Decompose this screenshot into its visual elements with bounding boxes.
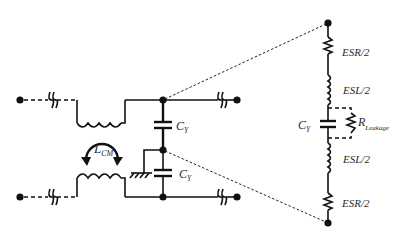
- esl-top-label: ESL/2: [342, 84, 370, 96]
- cm-inductor-top-winding: [77, 100, 125, 127]
- esl-top-inductor: [328, 75, 331, 105]
- cy-top-label: CY: [176, 119, 189, 135]
- esr-top-label: ESR/2: [341, 46, 370, 58]
- terminal-top-left: [16, 96, 23, 103]
- esr-bottom-resistor: [324, 193, 332, 210]
- r-leakage-resistor: [347, 113, 355, 133]
- bottom-line: [16, 174, 240, 205]
- y-capacitor-branch: [130, 96, 172, 200]
- terminal-top-right: [233, 96, 240, 103]
- zoom-line-bottom: [165, 151, 326, 222]
- zoom-line-top: [165, 24, 326, 99]
- top-node: [159, 96, 166, 103]
- terminal-bottom-right: [233, 193, 240, 200]
- chassis-ground-icon: [130, 173, 152, 178]
- bottom-node: [159, 193, 166, 200]
- eq-cy-label: CY: [298, 118, 311, 134]
- terminal-bottom-left: [16, 193, 23, 200]
- esl-bottom-inductor: [328, 143, 331, 173]
- cm-inductor-bottom-winding: [77, 174, 125, 197]
- cy-bottom-label: CY: [179, 167, 192, 183]
- eq-bottom-node: [324, 219, 331, 226]
- r-leakage-label: RLeakage: [357, 115, 389, 132]
- top-line: [16, 92, 240, 127]
- esr-top-resistor: [324, 37, 332, 54]
- esl-bottom-label: ESL/2: [342, 153, 370, 165]
- circuit-diagram: LCM CY CY: [0, 0, 407, 243]
- esr-bottom-label: ESR/2: [341, 197, 370, 209]
